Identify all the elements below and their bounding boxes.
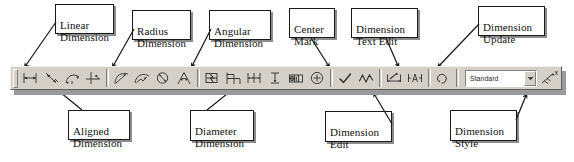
dimension-toolbar-wrap: Standard x bbox=[10, 66, 562, 90]
toolbar-button-jogged-dimension[interactable] bbox=[132, 68, 153, 88]
callout-linear-dimension: Linear Dimension bbox=[55, 4, 114, 34]
toolbar-separator-2 bbox=[197, 69, 200, 87]
check-mark-icon bbox=[337, 71, 354, 86]
callout-angular-dimension: Angular Dimension bbox=[209, 10, 271, 40]
linear-dimension-icon bbox=[22, 71, 39, 86]
leader-dimension-style bbox=[516, 93, 527, 120]
toolbar-button-quick-dimension[interactable] bbox=[202, 68, 223, 88]
dimension-style-combo[interactable]: Standard bbox=[465, 70, 537, 87]
callout-radius-dimension-text: Radius Dimension bbox=[137, 25, 186, 49]
toolbar-separator-1 bbox=[106, 69, 109, 87]
leader-linear-dimension bbox=[24, 22, 56, 68]
dimension-text-edit-icon bbox=[407, 71, 424, 86]
toolbar-button-continue-dimension[interactable] bbox=[244, 68, 265, 88]
ordinate-dimension-icon bbox=[85, 71, 102, 86]
leader-angular-dimension bbox=[191, 29, 211, 68]
callout-dimension-style: Dimension Style bbox=[450, 110, 517, 141]
toolbar-button-arc-length-dimension[interactable] bbox=[62, 68, 83, 88]
toolbar-button-aligned-dimension[interactable] bbox=[41, 68, 62, 88]
toolbar-button-baseline-dimension[interactable] bbox=[223, 68, 244, 88]
toolbar-button-dimension-edit-check[interactable] bbox=[335, 68, 356, 88]
toolbar-separator-4 bbox=[379, 69, 382, 87]
baseline-dimension-icon bbox=[225, 71, 242, 86]
toolbar-button-quick-leader[interactable] bbox=[265, 68, 286, 88]
toolbar-button-center-mark[interactable] bbox=[307, 68, 328, 88]
toolbar-close-label[interactable]: x bbox=[555, 69, 559, 76]
figure-root: Linear Dimension Radius Dimension Angula… bbox=[0, 0, 574, 162]
center-mark-icon bbox=[309, 71, 326, 86]
callout-linear-dimension-text: Linear Dimension bbox=[60, 19, 109, 43]
toolbar-button-radius-dimension[interactable] bbox=[111, 68, 132, 88]
leader-radius-dimension bbox=[112, 29, 134, 68]
callout-dimension-update: Dimension Update bbox=[478, 6, 545, 36]
arc-length-dimension-icon bbox=[64, 71, 81, 86]
callout-dimension-text-edit: Dimension Text Edit bbox=[351, 8, 418, 38]
callout-dimension-text-edit-text: Dimension Text Edit bbox=[356, 23, 405, 47]
toolbar-button-linear-dimension[interactable] bbox=[20, 68, 41, 88]
toolbar-button-tolerance[interactable] bbox=[286, 68, 307, 88]
aligned-dimension-icon bbox=[43, 71, 60, 86]
chevron-down-icon[interactable] bbox=[524, 71, 536, 86]
toolbar-separator-6 bbox=[456, 69, 459, 87]
continue-dimension-icon bbox=[246, 71, 263, 86]
toolbar-button-dimension-reassociate[interactable] bbox=[356, 68, 377, 88]
dimension-toolbar[interactable]: Standard x bbox=[10, 66, 562, 90]
dimension-style-combo-value: Standard bbox=[466, 75, 524, 82]
toolbar-button-diameter-dimension[interactable] bbox=[153, 68, 174, 88]
dimension-update-icon bbox=[435, 71, 452, 86]
diameter-dimension-icon bbox=[155, 71, 172, 86]
toolbar-button-dimension-text-edit[interactable] bbox=[405, 68, 426, 88]
toolbar-button-angular-dimension[interactable] bbox=[174, 68, 195, 88]
toolbar-drag-grip[interactable] bbox=[13, 69, 18, 88]
toolbar-separator-5 bbox=[428, 69, 431, 87]
angular-dimension-icon bbox=[176, 71, 193, 86]
leader-dimension-update bbox=[437, 24, 479, 68]
toolbar-button-dimension-update[interactable] bbox=[433, 68, 454, 88]
callout-diameter-dimension-text: Diameter Dimension bbox=[195, 125, 244, 149]
quick-leader-icon bbox=[267, 71, 284, 86]
radius-dimension-icon bbox=[113, 71, 130, 86]
toolbar-button-ordinate-dimension[interactable] bbox=[83, 68, 104, 88]
jogged-dimension-icon bbox=[134, 71, 151, 86]
callout-center-mark-text: Center Mark bbox=[294, 23, 324, 47]
wave-icon bbox=[358, 71, 375, 86]
toolbar-separator-3 bbox=[330, 69, 333, 87]
callout-aligned-dimension-text: Aligned Dimension bbox=[73, 125, 122, 149]
callout-dimension-style-text: Dimension Style bbox=[455, 125, 504, 149]
callout-angular-dimension-text: Angular Dimension bbox=[214, 25, 263, 49]
dimension-edit-icon bbox=[386, 71, 403, 86]
toolbar-button-dimension-style[interactable]: x bbox=[537, 68, 561, 88]
callout-dimension-edit: Dimension Edit bbox=[325, 111, 392, 142]
quick-dimension-icon bbox=[204, 71, 221, 86]
callout-center-mark: Center Mark bbox=[289, 8, 335, 38]
callout-diameter-dimension: Diameter Dimension bbox=[190, 110, 254, 141]
callout-radius-dimension: Radius Dimension bbox=[132, 10, 191, 40]
tolerance-icon bbox=[288, 71, 305, 86]
callout-aligned-dimension: Aligned Dimension bbox=[68, 110, 130, 140]
toolbar-button-dimension-edit[interactable] bbox=[384, 68, 405, 88]
callout-dimension-update-text: Dimension Update bbox=[483, 21, 532, 45]
callout-dimension-edit-text: Dimension Edit bbox=[330, 126, 379, 150]
